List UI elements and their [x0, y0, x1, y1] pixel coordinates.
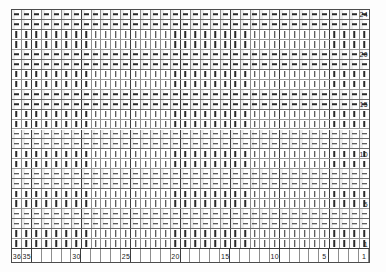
x-axis-tick-label: 20: [171, 253, 180, 261]
x-axis-tick-label: 35: [23, 253, 32, 261]
x-axis-segment: [32, 249, 42, 262]
chart-canvas: 2420151051 3635302520151051: [0, 0, 386, 272]
x-axis-segment: [240, 249, 250, 262]
x-axis-tick-label: 15: [221, 253, 230, 261]
x-axis-segment: [81, 249, 91, 262]
x-axis-segment: [181, 249, 191, 262]
y-axis-tick-label: 5: [364, 201, 368, 209]
x-axis-segment: [290, 249, 300, 262]
x-axis-segment: [131, 249, 141, 262]
x-axis-segment: [91, 249, 101, 262]
x-axis-tick-label: 30: [72, 253, 81, 261]
y-axis-tick-label: 24: [359, 11, 368, 19]
x-axis-segment: [141, 249, 151, 262]
x-axis-segment: [310, 249, 320, 262]
x-axis-tick-label: 10: [270, 253, 279, 261]
y-axis-tick-label: 20: [359, 51, 368, 59]
x-axis-segment: [191, 249, 201, 262]
x-axis-tick-label: 1: [362, 253, 366, 261]
x-axis-segment: [260, 249, 270, 262]
x-axis-tick-label: 36: [13, 253, 22, 261]
x-axis-segment: [210, 249, 220, 262]
x-axis-segment: [349, 249, 359, 262]
x-axis-segment: [339, 249, 349, 262]
x-axis-segment: [329, 249, 339, 262]
x-axis-segment: [250, 249, 260, 262]
x-axis-tick-label: 5: [322, 253, 326, 261]
x-axis-tick-label: 25: [122, 253, 131, 261]
y-axis-tick-label: 10: [359, 151, 368, 159]
x-axis-segment: [151, 249, 161, 262]
x-axis-segment: [280, 249, 290, 262]
grid-plot-area[interactable]: 2420151051 3635302520151051: [11, 9, 370, 263]
y-axis-tick-label: 15: [359, 101, 368, 109]
x-axis-segment: [111, 249, 121, 262]
x-axis-segment: [42, 249, 52, 262]
x-axis-segment: [62, 249, 72, 262]
x-axis-strip[interactable]: 3635302520151051: [12, 248, 369, 262]
x-axis-segment: [300, 249, 310, 262]
x-axis-segment: [200, 249, 210, 262]
x-axis-segment: [101, 249, 111, 262]
y-axis-labels: 2420151051: [12, 10, 369, 262]
x-axis-segment: [52, 249, 62, 262]
x-axis-segment: [230, 249, 240, 262]
x-axis-segment: [161, 249, 171, 262]
